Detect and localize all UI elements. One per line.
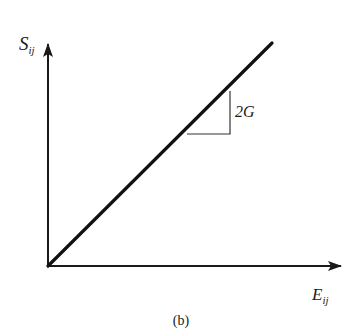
y-axis-label: Sij [19, 34, 35, 53]
stress-strain-diagram [0, 0, 362, 332]
y-axis-symbol: S [19, 33, 29, 54]
slope-label: 2G [235, 104, 255, 120]
figure-caption: (b) [0, 313, 362, 329]
x-axis-subscript: ij [322, 294, 328, 306]
x-axis-label: Eij [312, 286, 329, 303]
y-axis-subscript: ij [29, 44, 35, 56]
linear-relation-line [48, 43, 272, 266]
x-axis-symbol: E [312, 285, 322, 304]
slope-triangle [187, 91, 230, 134]
